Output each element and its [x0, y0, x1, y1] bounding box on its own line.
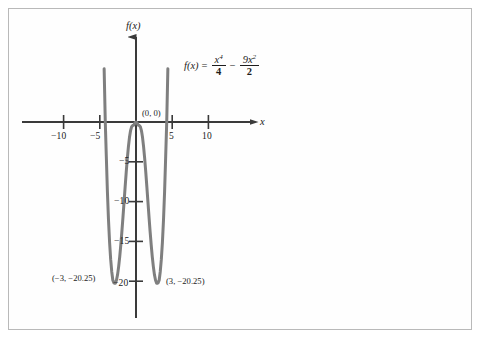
equation-term-1-numerator: x4: [212, 54, 226, 65]
equation-term-2-base: 9x: [243, 54, 253, 65]
figure-canvas: f(x) x −10 −5 5 10 −5 −10 −15 −20 (0, 0)…: [0, 0, 485, 344]
equation-term-1-exponent: 4: [219, 53, 223, 61]
y-tick-label--20: −20: [113, 279, 128, 289]
graph-plot-area: [0, 0, 485, 344]
equation-term-1: x44: [212, 54, 226, 78]
origin-annotation: (0, 0): [142, 109, 161, 118]
left-minimum-annotation: (−3, −20.25): [52, 274, 95, 283]
x-tick-label--10: −10: [51, 132, 66, 142]
y-axis-label: f(x): [126, 21, 141, 32]
equation-lhs: f(x): [184, 61, 199, 72]
equation-operator: −: [227, 61, 239, 72]
equation-term-2-exponent: 2: [253, 53, 257, 61]
equation-term-2-numerator: 9x2: [240, 54, 259, 65]
equation-equals: =: [199, 61, 211, 72]
y-tick-label--15: −15: [114, 237, 129, 247]
y-tick-label--5: −5: [119, 157, 130, 167]
right-minimum-annotation: (3, −20.25): [166, 277, 205, 286]
y-tick-label--10: −10: [114, 197, 129, 207]
x-tick-label--5: −5: [90, 132, 101, 142]
x-tick-label-10: 10: [202, 132, 212, 142]
function-equation: f(x)=x44−9x22: [184, 54, 260, 78]
x-tick-label-5: 5: [169, 132, 174, 142]
equation-term-1-denominator: 4: [212, 65, 226, 78]
equation-term-2-denominator: 2: [240, 65, 259, 78]
x-axis-label: x: [260, 117, 265, 128]
equation-term-2: 9x22: [240, 54, 259, 78]
